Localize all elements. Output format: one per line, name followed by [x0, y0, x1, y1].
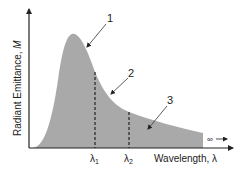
region-label-1: 1	[107, 12, 113, 24]
emittance-curve-area	[33, 34, 203, 148]
pointer-arrow-1	[87, 24, 106, 47]
lambda1-label: λ1	[90, 153, 99, 165]
lambda2-label: λ2	[124, 153, 133, 165]
y-axis-label: Radiant Emittance, M	[12, 40, 23, 136]
pointer-arrow-2	[111, 78, 128, 94]
region-label-2: 2	[128, 67, 134, 79]
x-axis-label: Wavelength, λ	[154, 153, 217, 164]
radiation-curve-diagram: 1 2 3 ∞ λ1 λ2 Wavelength, λ Radiant Emit…	[0, 0, 244, 174]
region-label-3: 3	[167, 94, 173, 106]
infinity-label: ∞	[207, 135, 213, 144]
